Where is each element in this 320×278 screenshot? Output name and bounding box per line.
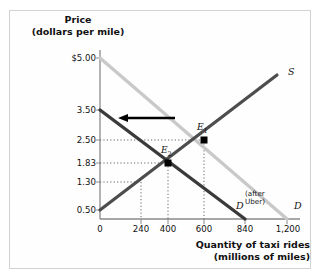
equilibrium-1-label: E1 <box>197 122 208 135</box>
x-tick-label-400: 400 <box>153 224 183 234</box>
chart-plot-area <box>0 0 320 278</box>
x-axis-title-line1: Quantity of taxi rides <box>170 239 310 251</box>
demand-original-curve-label: D <box>294 200 302 211</box>
y-axis-title-line2: (dollars per mile) <box>18 26 138 38</box>
y-tick-label-050: 0.50 <box>50 205 96 215</box>
x-tick-label-240: 240 <box>126 224 156 234</box>
x-tick-label-1200: 1,200 <box>271 224 305 234</box>
x-axis-title: Quantity of taxi rides (millions of mile… <box>170 239 310 262</box>
equilibrium-1-subscript: 1 <box>204 127 208 135</box>
y-axis-title: Price (dollars per mile) <box>18 14 138 37</box>
y-tick-label-500: $5.00 <box>50 53 96 63</box>
demand-after-uber-curve-label: D <box>236 200 244 211</box>
x-tick-label-600: 600 <box>189 224 219 234</box>
y-tick-label-183: 1.83 <box>50 158 96 168</box>
equilibrium-point-icon-e1 <box>201 137 208 144</box>
demand-after-uber-note-line2: Uber) <box>245 198 265 206</box>
equilibrium-2-letter: E <box>161 145 168 155</box>
y-tick-label-250: 2.50 <box>50 135 96 145</box>
equilibrium-2-subscript: 2 <box>168 150 172 158</box>
guide-lines <box>100 140 204 219</box>
x-tick-label-0: 0 <box>90 224 110 234</box>
y-tick-label-350: 3.50 <box>50 105 96 115</box>
x-axis-title-line2: (millions of miles) <box>170 251 310 263</box>
supply-curve-label: S <box>288 66 295 77</box>
equilibrium-1-letter: E <box>197 122 204 132</box>
equilibrium-point-icon-e2 <box>165 160 172 167</box>
x-tick-label-840: 840 <box>230 224 260 234</box>
y-tick-label-130: 1.30 <box>50 177 96 187</box>
equilibrium-2-label: E2 <box>161 145 172 158</box>
supply-demand-figure: Price (dollars per mile) Quantity of tax… <box>0 0 320 278</box>
y-axis-title-line1: Price <box>18 14 138 26</box>
demand-after-uber-note: (after Uber) <box>245 190 265 207</box>
